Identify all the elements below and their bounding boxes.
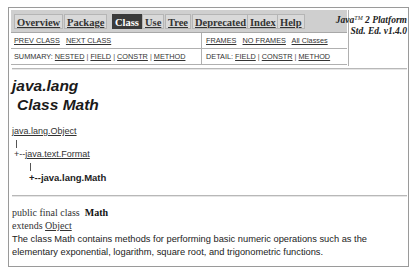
detail-label: DETAIL: — [206, 52, 233, 61]
trademark: TM — [354, 15, 362, 21]
platform-edition: Std. Ed. v1.4.0 — [351, 25, 407, 37]
cell-divider — [201, 49, 202, 65]
summary-detail-row: SUMMARY: NESTED | FIELD | CONSTR | METHO… — [11, 49, 347, 65]
nav-tab-row: Overview Package Class Use Tree Deprecat… — [11, 10, 347, 33]
summary-label: SUMMARY: — [14, 52, 53, 61]
object-link[interactable]: Object — [45, 220, 72, 231]
tab-index[interactable]: Index — [247, 14, 279, 29]
summary-method-link[interactable]: METHOD — [154, 52, 186, 61]
tab-tree[interactable]: Tree — [165, 14, 191, 29]
divider — [12, 195, 407, 197]
platform-java: Java — [336, 15, 354, 25]
separator: | — [295, 52, 297, 61]
class-description: The class Math contains methods for perf… — [12, 233, 407, 259]
tab-deprecated[interactable]: Deprecated — [192, 14, 249, 29]
separator: | — [113, 52, 115, 61]
extends-clause: extends Object — [12, 219, 72, 232]
cell-divider — [201, 33, 202, 49]
divider — [12, 68, 407, 70]
detail-method-link[interactable]: METHOD — [299, 52, 331, 61]
separator: | — [258, 52, 260, 61]
summary-constr-link[interactable]: CONSTR — [117, 52, 148, 61]
tab-overview[interactable]: Overview — [14, 14, 63, 29]
next-class-link[interactable]: NEXT CLASS — [66, 36, 111, 45]
detail-constr-link[interactable]: CONSTR — [262, 52, 293, 61]
no-frames-link[interactable]: NO FRAMES — [243, 36, 286, 45]
tree-connector — [16, 140, 17, 148]
platform-name: 2 Platform — [363, 15, 407, 25]
all-classes-link[interactable]: All Classes — [292, 36, 328, 45]
javadoc-page: Overview Package Class Use Tree Deprecat… — [8, 7, 409, 267]
summary-nested-link[interactable]: NESTED — [55, 52, 85, 61]
extends-label: extends — [12, 220, 45, 231]
tree-branch: +-- — [29, 172, 41, 183]
package-name: java.lang — [12, 77, 78, 95]
format-class-link[interactable]: java.text.Format — [25, 149, 90, 159]
class-nav-row: PREV CLASS NEXT CLASS FRAMES NO FRAMES A… — [11, 33, 347, 49]
tree-branch: +-- — [14, 149, 25, 159]
tab-package[interactable]: Package — [64, 14, 107, 29]
class-modifiers: public final class — [12, 207, 82, 218]
tree-connector — [30, 163, 31, 171]
frames-link[interactable]: FRAMES — [206, 36, 236, 45]
class-name: Math — [85, 207, 108, 218]
tab-help[interactable]: Help — [277, 14, 305, 29]
platform-label: JavaTM 2 Platform Std. Ed. v1.4.0 — [348, 10, 407, 66]
detail-field-link[interactable]: FIELD — [235, 52, 256, 61]
separator: | — [150, 52, 152, 61]
class-declaration: public final class Math — [12, 206, 108, 219]
tab-class[interactable]: Class — [112, 14, 142, 29]
prev-class-link[interactable]: PREV CLASS — [14, 36, 60, 45]
current-class: java.lang.Math — [41, 172, 106, 183]
object-class-link[interactable]: java.lang.Object — [12, 126, 77, 136]
separator: | — [86, 52, 88, 61]
tab-use[interactable]: Use — [142, 14, 164, 29]
top-navbar: Overview Package Class Use Tree Deprecat… — [11, 10, 347, 66]
summary-field-link[interactable]: FIELD — [90, 52, 111, 61]
class-title: Class Math — [17, 96, 99, 114]
